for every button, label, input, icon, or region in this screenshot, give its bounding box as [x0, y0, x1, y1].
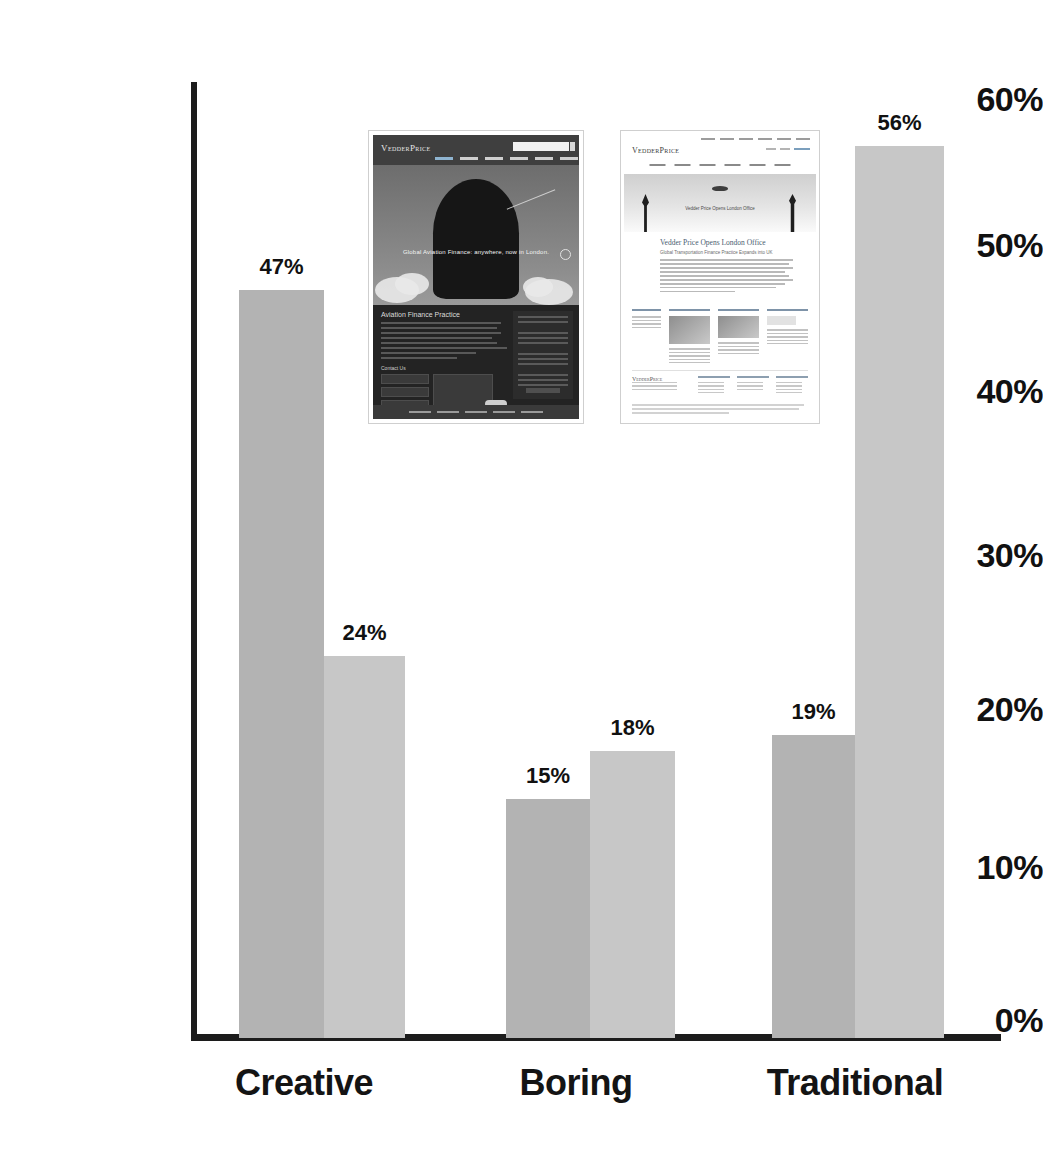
play-icon[interactable] [560, 249, 571, 260]
traditional-site-utility-nav[interactable] [701, 138, 810, 140]
bar-boring-series-2[interactable] [590, 751, 675, 1038]
search-icon[interactable] [766, 148, 776, 150]
bar-boring-series-1[interactable] [506, 799, 590, 1038]
nav-item[interactable] [720, 138, 734, 140]
traditional-site-viewport: VedderPrice Vedder Price Opens London Of… [624, 134, 816, 420]
nav-item[interactable] [777, 138, 791, 140]
footer-link[interactable] [698, 382, 724, 383]
x-category-label-traditional: Traditional [740, 1065, 970, 1101]
sidebar-button[interactable] [526, 388, 560, 393]
text-line [381, 327, 497, 329]
nav-item[interactable] [750, 164, 766, 166]
creative-site-hero-text: Global Aviation Finance: anywhere, now i… [403, 249, 549, 255]
sidebar-text-line [518, 353, 568, 355]
nav-item[interactable] [796, 138, 810, 140]
search-icon[interactable] [570, 142, 575, 151]
text-line [660, 279, 793, 281]
traditional-site-main-nav[interactable] [650, 164, 791, 166]
meta-link-highlight[interactable] [794, 148, 810, 150]
footer-link[interactable] [776, 392, 802, 393]
footer-link[interactable] [737, 389, 763, 390]
footer-link[interactable] [737, 382, 763, 383]
nav-item[interactable] [650, 164, 666, 166]
traditional-website-screenshot[interactable]: VedderPrice Vedder Price Opens London Of… [620, 130, 820, 424]
nav-item[interactable] [758, 138, 772, 140]
nav-item[interactable] [435, 157, 453, 160]
footer-link[interactable] [776, 389, 802, 390]
footer-link[interactable] [698, 389, 724, 390]
creative-site-viewport: VedderPrice [373, 135, 579, 419]
nav-item[interactable] [535, 157, 553, 160]
text-line [381, 352, 476, 354]
email-field[interactable] [381, 387, 429, 397]
footer-link[interactable] [409, 411, 431, 413]
traditional-site-search-row[interactable] [766, 148, 810, 150]
bar-traditional-series-1[interactable] [772, 735, 855, 1038]
nav-item[interactable] [775, 164, 791, 166]
text-line [767, 333, 808, 334]
x-category-label-boring: Boring [476, 1065, 676, 1101]
traditional-site-headline: Vedder Price Opens London Office [660, 238, 796, 247]
nav-item[interactable] [560, 157, 578, 160]
nav-item[interactable] [675, 164, 691, 166]
text-line [660, 263, 789, 265]
footer-link[interactable] [776, 385, 802, 386]
footer-link[interactable] [776, 382, 802, 383]
footer-link[interactable] [521, 411, 543, 413]
traditional-site-article: Vedder Price Opens London Office Global … [660, 238, 796, 295]
footer-link[interactable] [465, 411, 487, 413]
text-line [669, 362, 710, 363]
text-line [767, 340, 808, 341]
nav-item[interactable] [700, 164, 716, 166]
text-line [660, 291, 735, 293]
message-textarea[interactable] [433, 374, 493, 406]
sidebar-text-line [518, 384, 568, 386]
text-line [767, 336, 808, 337]
contrail-icon [507, 189, 556, 209]
cloud-icon [523, 277, 553, 297]
sidebar-text-line [518, 337, 568, 339]
nav-item[interactable] [510, 157, 528, 160]
nav-item[interactable] [460, 157, 478, 160]
name-field[interactable] [381, 374, 429, 384]
nav-item[interactable] [725, 164, 741, 166]
column-heading [767, 309, 808, 311]
text-line [660, 287, 776, 289]
bar-creative-series-1[interactable] [239, 290, 324, 1038]
text-line [767, 329, 808, 330]
text-line [632, 320, 661, 321]
footer-column-heading [698, 376, 730, 378]
text-line [718, 349, 759, 350]
traditional-site-hero-text: Vedder Price Opens London Office [685, 206, 754, 211]
text-line [718, 342, 759, 343]
footer-link[interactable] [493, 411, 515, 413]
bar-traditional-series-2[interactable] [855, 146, 944, 1038]
creative-site-article: Aviation Finance Practice Contact Us [381, 311, 507, 410]
footer-link[interactable] [737, 385, 763, 386]
creative-site-search-input[interactable] [513, 142, 569, 151]
creative-site-hero: Global Aviation Finance: anywhere, now i… [373, 165, 579, 305]
nav-item[interactable] [485, 157, 503, 160]
column-heading [718, 309, 759, 311]
sidebar-text-line [518, 374, 568, 376]
partner-logo [767, 316, 796, 325]
traditional-site-columns [632, 309, 808, 365]
creative-site-body: Aviation Finance Practice Contact Us [373, 305, 579, 405]
bar-label-traditional-series-2: 56% [855, 112, 944, 134]
thumbnail-photo [718, 316, 759, 338]
footer-link[interactable] [698, 385, 724, 386]
nav-item[interactable] [739, 138, 753, 140]
traditional-site-hero: Vedder Price Opens London Office [624, 174, 816, 232]
text-line [660, 283, 785, 285]
traditional-site-logo: VedderPrice [632, 146, 679, 155]
footer-link[interactable] [437, 411, 459, 413]
meta-link[interactable] [780, 148, 790, 150]
footer-column-heading [776, 376, 808, 378]
bar-creative-series-2[interactable] [324, 656, 405, 1038]
creative-site-nav[interactable] [435, 157, 579, 160]
nav-item[interactable] [701, 138, 715, 140]
sidebar-text-line [518, 332, 568, 334]
footer-link[interactable] [698, 392, 724, 393]
creative-website-screenshot[interactable]: VedderPrice [368, 130, 584, 424]
x-category-label-creative: Creative [189, 1065, 419, 1101]
